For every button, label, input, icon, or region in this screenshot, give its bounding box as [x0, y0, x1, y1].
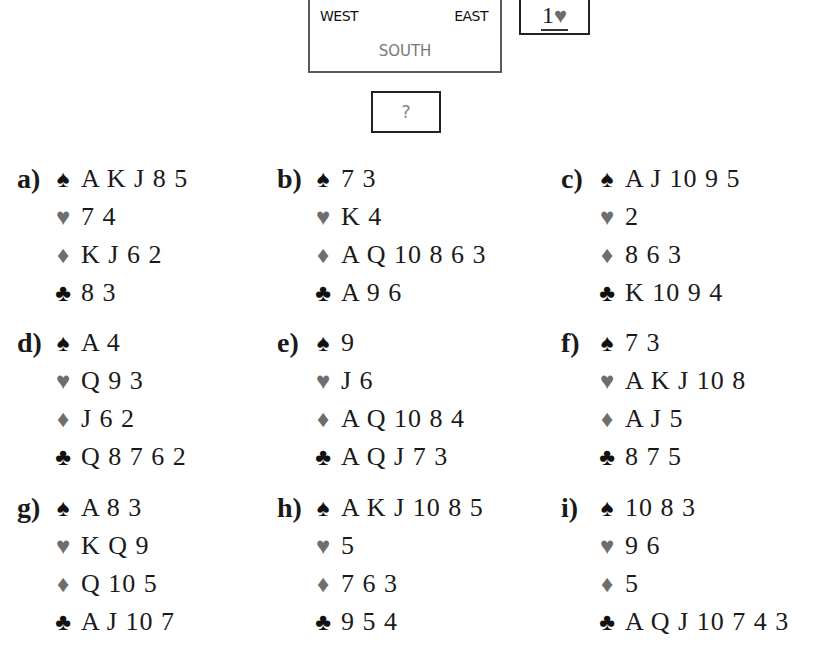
- suit-row-spades: ♠7 3: [309, 162, 377, 196]
- bid-level: 1: [542, 2, 554, 28]
- heart-icon: ♥: [309, 364, 337, 398]
- suit-row-hearts: ♥5: [309, 529, 355, 563]
- suit-row-hearts: ♥7 4: [49, 200, 117, 234]
- hand-label: f): [561, 326, 580, 360]
- spade-icon: ♠: [49, 162, 77, 196]
- suit-row-diamonds: ♦J 6 2: [49, 402, 135, 436]
- heart-icon: ♥: [49, 200, 77, 234]
- spade-icon: ♠: [309, 162, 337, 196]
- card-holding: 7 4: [81, 202, 117, 231]
- card-holding: J 6: [341, 366, 374, 395]
- heart-icon: ♥: [554, 3, 567, 28]
- diamond-icon: ♦: [49, 238, 77, 272]
- club-icon: ♣: [309, 605, 337, 639]
- card-holding: 2: [625, 202, 639, 231]
- spade-icon: ♠: [309, 491, 337, 525]
- diamond-icon: ♦: [593, 238, 621, 272]
- spade-icon: ♠: [593, 491, 621, 525]
- suit-row-diamonds: ♦7 6 3: [309, 567, 398, 601]
- card-holding: A Q 10 8 4: [341, 404, 465, 433]
- diamond-icon: ♦: [309, 402, 337, 436]
- heart-icon: ♥: [593, 529, 621, 563]
- south-bid-question-box: ?: [371, 91, 441, 133]
- card-holding: A Q J 7 3: [341, 442, 448, 471]
- spade-icon: ♠: [593, 326, 621, 360]
- suit-row-diamonds: ♦5: [593, 567, 639, 601]
- card-holding: 5: [341, 531, 355, 560]
- card-holding: 7 3: [341, 164, 377, 193]
- suit-row-spades: ♠A 8 3: [49, 491, 142, 525]
- card-holding: A K J 10 8 5: [341, 493, 484, 522]
- card-holding: Q 8 7 6 2: [81, 442, 187, 471]
- club-icon: ♣: [49, 605, 77, 639]
- suit-row-clubs: ♣A J 10 7: [49, 605, 175, 639]
- club-icon: ♣: [49, 440, 77, 474]
- suit-row-spades: ♠A J 10 9 5: [593, 162, 740, 196]
- card-holding: K 10 9 4: [625, 278, 723, 307]
- bridge-table-diagram: WEST EAST SOUTH: [308, 0, 502, 73]
- card-holding: 7 3: [625, 328, 661, 357]
- south-label: SOUTH: [310, 42, 500, 60]
- east-label: EAST: [454, 8, 488, 24]
- club-icon: ♣: [309, 440, 337, 474]
- card-holding: 9 6: [625, 531, 661, 560]
- card-holding: J 6 2: [81, 404, 135, 433]
- suit-row-hearts: ♥A K J 10 8: [593, 364, 746, 398]
- suit-row-diamonds: ♦Q 10 5: [49, 567, 158, 601]
- suit-row-clubs: ♣8 3: [49, 276, 117, 310]
- opening-bid: 1♥: [541, 2, 568, 31]
- hand-label: e): [277, 326, 299, 360]
- suit-row-hearts: ♥K Q 9: [49, 529, 150, 563]
- card-holding: 9: [341, 328, 355, 357]
- card-holding: 5: [625, 569, 639, 598]
- suit-row-clubs: ♣8 7 5: [593, 440, 682, 474]
- hand-label: g): [17, 491, 40, 525]
- suit-row-hearts: ♥Q 9 3: [49, 364, 144, 398]
- card-holding: 9 5 4: [341, 607, 398, 636]
- suit-row-clubs: ♣Q 8 7 6 2: [49, 440, 187, 474]
- card-holding: K J 6 2: [81, 240, 162, 269]
- card-holding: A K J 10 8: [625, 366, 746, 395]
- card-holding: 7 6 3: [341, 569, 398, 598]
- spade-icon: ♠: [49, 491, 77, 525]
- west-label: WEST: [320, 8, 358, 24]
- suit-row-spades: ♠7 3: [593, 326, 661, 360]
- suit-row-clubs: ♣A Q J 10 7 4 3: [593, 605, 789, 639]
- club-icon: ♣: [49, 276, 77, 310]
- diamond-icon: ♦: [593, 402, 621, 436]
- card-holding: K 4: [341, 202, 382, 231]
- diamond-icon: ♦: [49, 402, 77, 436]
- heart-icon: ♥: [309, 200, 337, 234]
- card-holding: A K J 8 5: [81, 164, 188, 193]
- suit-row-hearts: ♥9 6: [593, 529, 661, 563]
- spade-icon: ♠: [49, 326, 77, 360]
- heart-icon: ♥: [309, 529, 337, 563]
- card-holding: 8 6 3: [625, 240, 682, 269]
- card-holding: A 9 6: [341, 278, 402, 307]
- diamond-icon: ♦: [309, 567, 337, 601]
- heart-icon: ♥: [49, 364, 77, 398]
- suit-row-spades: ♠A K J 8 5: [49, 162, 188, 196]
- card-holding: Q 9 3: [81, 366, 144, 395]
- card-holding: A 8 3: [81, 493, 142, 522]
- card-holding: 8 7 5: [625, 442, 682, 471]
- suit-row-hearts: ♥2: [593, 200, 639, 234]
- hand-label: h): [277, 491, 302, 525]
- card-holding: A Q J 10 7 4 3: [625, 607, 789, 636]
- hand-label: c): [561, 162, 583, 196]
- club-icon: ♣: [593, 440, 621, 474]
- suit-row-hearts: ♥K 4: [309, 200, 382, 234]
- hand-label: a): [17, 162, 40, 196]
- club-icon: ♣: [309, 276, 337, 310]
- club-icon: ♣: [593, 276, 621, 310]
- card-holding: A Q 10 8 6 3: [341, 240, 487, 269]
- hand-label: i): [561, 491, 578, 525]
- club-icon: ♣: [593, 605, 621, 639]
- diamond-icon: ♦: [593, 567, 621, 601]
- spade-icon: ♠: [309, 326, 337, 360]
- heart-icon: ♥: [49, 529, 77, 563]
- suit-row-spades: ♠A 4: [49, 326, 121, 360]
- suit-row-clubs: ♣A 9 6: [309, 276, 402, 310]
- east-bid-box: 1♥: [519, 0, 590, 35]
- suit-row-clubs: ♣9 5 4: [309, 605, 398, 639]
